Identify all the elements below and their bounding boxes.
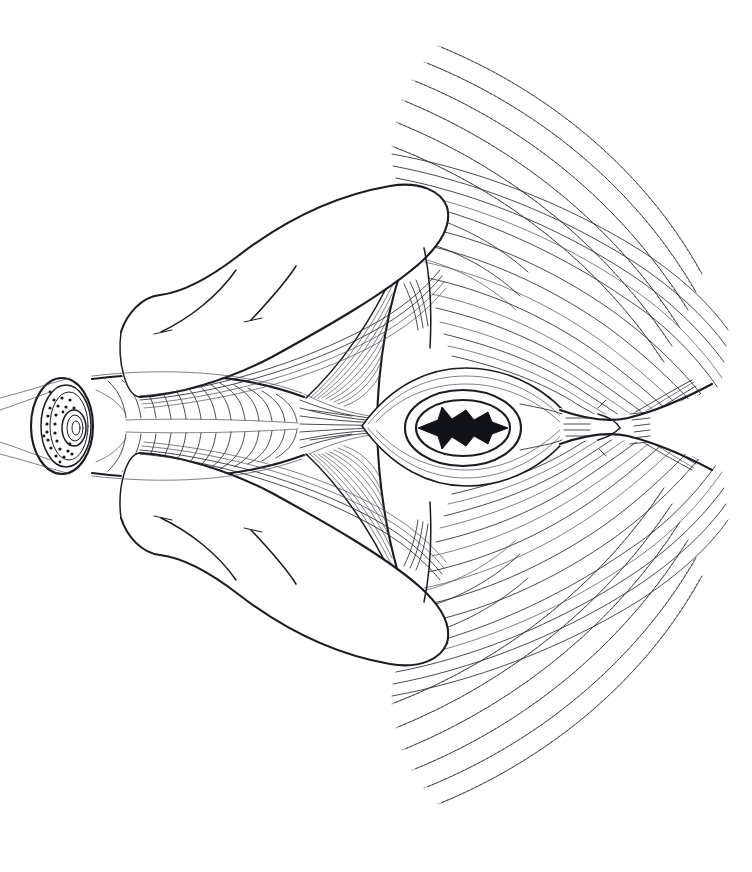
tubular-organ-cross-section bbox=[31, 378, 93, 474]
central-orifice bbox=[405, 390, 521, 466]
anatomical-illustration-canvas bbox=[0, 0, 752, 872]
anatomical-figure-root bbox=[0, 0, 752, 872]
